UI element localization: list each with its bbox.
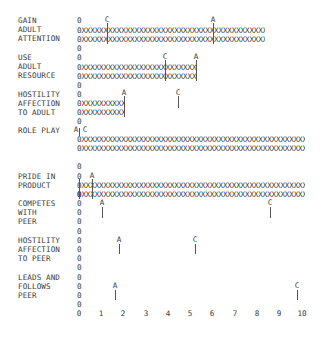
marker-c-role-play: C [83, 125, 88, 134]
marker-tick [79, 128, 80, 136]
zero-mark: 0 [77, 199, 82, 208]
category-label-leads-and-follows-peer: LEADS ANDFOLLOWSPEER [18, 273, 60, 301]
bar-hostility-affection-to-adult: 0XXXXXXXXXXXXXXXXXXXXXXXXXXXXXXXXXXXXXXX… [77, 99, 125, 108]
zero-mark: 0 [77, 217, 82, 226]
zero-mark: 0 [77, 53, 82, 62]
x-tick-label: 10 [297, 309, 306, 318]
bar-gain-adult-attention: 0XXXXXXXXXXXXXXXXXXXXXXXXXXXXXXXXXXXXXXX… [77, 35, 265, 44]
category-label-pride-in-product: PRIDE INPRODUCT [18, 172, 55, 190]
category-label-use-adult-resource: USEADULTRESOURCE [18, 53, 55, 81]
marker-c-competes-with-peer: C [268, 198, 273, 207]
zero-mark: 0 [77, 282, 82, 291]
zero-mark: 0 [77, 254, 82, 263]
zero-mark: 0 [77, 245, 82, 254]
bar-role-play: 0XXXXXXXXXXXXXXXXXXXXXXXXXXXXXXXXXXXXXXX… [77, 135, 305, 144]
marker-tick [196, 60, 197, 81]
marker-tick [115, 290, 116, 300]
x-tick-label: 2 [121, 309, 126, 318]
marker-c-leads-and-follows-peer: C [295, 281, 300, 290]
marker-tick [195, 244, 196, 254]
zero-mark: 0 [77, 162, 82, 171]
zero-mark: 0 [77, 273, 82, 282]
x-tick-label: 6 [210, 309, 215, 318]
category-label-hostility-affection-to-adult: HOSTILITYAFFECTIONTO ADULT [18, 90, 60, 118]
marker-tick [92, 179, 93, 199]
x-tick-label: 1 [99, 309, 104, 318]
marker-a-competes-with-peer: A [100, 198, 105, 207]
marker-tick [297, 290, 298, 300]
bar-pride-in-product: 0XXXXXXXXXXXXXXXXXXXXXXXXXXXXXXXXXXXXXXX… [77, 181, 305, 190]
x-tick-label: 0 [77, 309, 82, 318]
bar-use-adult-resource: 0XXXXXXXXXXXXXXXXXXXXXXXXXXXXXXXXXXXXXXX… [77, 63, 197, 72]
marker-tick [165, 60, 166, 81]
zero-mark: 0 [77, 81, 82, 90]
marker-a-role-play: A [74, 125, 79, 134]
zero-mark: 0 [77, 44, 82, 53]
x-tick-label: 5 [188, 309, 193, 318]
marker-tick-c-pride-in-product [79, 179, 80, 199]
category-label-gain-adult-attention: GAINADULTATTENTION [18, 16, 60, 44]
x-tick-label: 4 [166, 309, 171, 318]
x-tick-label: 8 [255, 309, 260, 318]
x-tick-label: 3 [144, 309, 149, 318]
zero-mark: 0 [77, 291, 82, 300]
marker-tick [213, 23, 214, 44]
marker-tick [270, 207, 271, 218]
marker-c-hostility-affection-to-peer: C [193, 235, 198, 244]
bar-role-play: 0XXXXXXXXXXXXXXXXXXXXXXXXXXXXXXXXXXXXXXX… [77, 144, 305, 153]
marker-a-leads-and-follows-peer: A [113, 281, 118, 290]
bar-use-adult-resource: 0XXXXXXXXXXXXXXXXXXXXXXXXXXXXXXXXXXXXXXX… [77, 72, 197, 81]
marker-tick [124, 96, 125, 117]
category-label-competes-with-peer: COMPETESWITHPEER [18, 199, 55, 227]
zero-mark: 0 [77, 300, 82, 309]
zero-mark: 0 [77, 263, 82, 272]
zero-mark: 0 [77, 227, 82, 236]
zero-mark: 0 [77, 16, 82, 25]
bar-gain-adult-attention: 0XXXXXXXXXXXXXXXXXXXXXXXXXXXXXXXXXXXXXXX… [77, 26, 265, 35]
marker-tick [178, 96, 179, 108]
category-label-hostility-affection-to-peer: HOSTILITYAFFECTIONTO PEER [18, 236, 60, 264]
marker-tick [102, 207, 103, 218]
zero-mark: 0 [77, 236, 82, 245]
marker-tick [119, 244, 120, 254]
marker-tick [107, 23, 108, 44]
marker-a-hostility-affection-to-peer: A [117, 235, 122, 244]
zero-mark: 0 [77, 90, 82, 99]
zero-mark: 0 [77, 208, 82, 217]
x-tick-label: 7 [233, 309, 238, 318]
x-tick-label: 9 [277, 309, 282, 318]
category-label-role-play: ROLE PLAY [18, 126, 60, 135]
bar-hostility-affection-to-adult: 0XXXXXXXXXXXXXXXXXXXXXXXXXXXXXXXXXXXXXXX… [77, 108, 125, 117]
